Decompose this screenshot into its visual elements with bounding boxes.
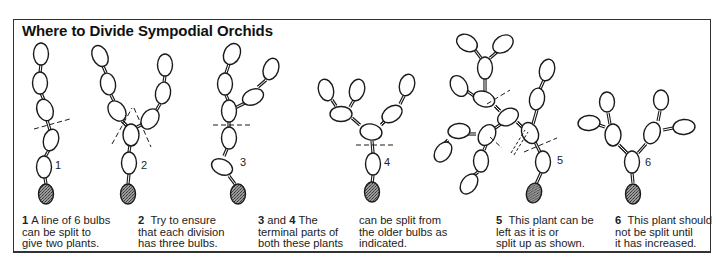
caption-line: split up as shown. xyxy=(496,237,585,249)
caption-line: it has increased. xyxy=(615,237,696,249)
figure-label-1: 1 xyxy=(55,159,61,171)
caption-line: This plant can be xyxy=(508,214,593,226)
caption-line: The xyxy=(298,214,317,226)
figure-label-2: 2 xyxy=(141,159,147,171)
caption-3-4-continued: can be split from the older bulbs as ind… xyxy=(359,215,447,250)
caption-line: indicated. xyxy=(359,237,407,249)
caption-line: give two plants. xyxy=(22,237,99,249)
plant-figure-1 xyxy=(33,43,71,204)
plant-figure-4 xyxy=(316,72,417,202)
caption-line: has three bulbs. xyxy=(138,237,218,249)
caption-line: A line of 6 bulbs xyxy=(31,214,110,226)
caption-joiner: and xyxy=(267,214,286,226)
plant-figure-6 xyxy=(577,90,695,204)
caption-line: This plant should xyxy=(627,214,712,226)
plant-figure-3 xyxy=(209,41,282,204)
caption-5-number: 5 xyxy=(496,214,502,226)
caption-1-number: 1 xyxy=(22,214,28,226)
plant-figure-2 xyxy=(89,43,173,204)
caption-6: 6 This plant should not be split until i… xyxy=(615,215,712,250)
caption-6-number: 6 xyxy=(615,214,621,226)
caption-2-number: 2 xyxy=(138,214,144,226)
caption-line: the older bulbs as xyxy=(359,226,447,238)
figure-label-5: 5 xyxy=(557,154,563,166)
figure-label-4: 4 xyxy=(384,156,390,168)
caption-4-number: 4 xyxy=(289,214,295,226)
caption-line: not be split until xyxy=(615,226,693,238)
caption-2: 2 Try to ensure that each division has t… xyxy=(138,215,224,250)
figure-label-6: 6 xyxy=(645,156,651,168)
caption-line: both these plants xyxy=(258,237,343,249)
caption-line: that each division xyxy=(138,226,224,238)
caption-line: can be split to xyxy=(22,226,91,238)
caption-line: terminal parts of xyxy=(258,226,338,238)
caption-1: 1 A line of 6 bulbs can be split to give… xyxy=(22,215,110,250)
figure-label-3: 3 xyxy=(240,156,246,168)
caption-line: Try to ensure xyxy=(150,214,216,226)
caption-line: can be split from xyxy=(359,214,441,226)
caption-5: 5 This plant can be left as it is or spl… xyxy=(496,215,594,250)
caption-line: left as it is or xyxy=(496,226,559,238)
caption-3-number: 3 xyxy=(258,214,264,226)
caption-3-4: 3 and 4 The terminal parts of both these… xyxy=(258,215,343,250)
plant-figure-5 xyxy=(431,31,558,205)
